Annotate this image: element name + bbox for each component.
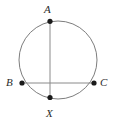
point-x-dot <box>47 95 52 100</box>
circle-outline <box>19 21 97 99</box>
point-a-dot <box>47 19 52 24</box>
point-label-a: A <box>44 4 51 15</box>
geometry-figure: A B C X <box>0 0 114 121</box>
point-label-b: B <box>6 77 13 88</box>
geometry-canvas <box>0 0 114 121</box>
point-b-dot <box>19 80 24 85</box>
point-label-x: X <box>46 108 53 119</box>
point-label-c: C <box>100 77 107 88</box>
point-c-dot <box>91 80 96 85</box>
